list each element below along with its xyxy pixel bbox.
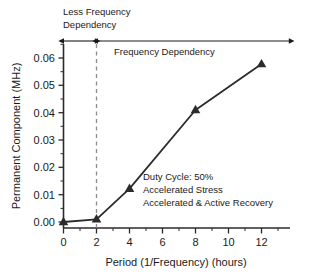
condition-note-line1: Duty Cycle: 50% [143, 171, 214, 182]
permanent-component-vs-period-chart: Less Frequency Dependency Frequency Depe… [0, 0, 309, 278]
x-axis-title: Period (1/Frequency) (hours) [105, 256, 246, 268]
y-tick-label: 0.01 [34, 189, 55, 201]
y-axis-title: Permanent Component (MHz) [10, 63, 22, 210]
frequency-dependency-label: Frequency Dependency [114, 46, 215, 57]
x-tick-label: 12 [255, 236, 267, 248]
y-tick-label: 0.06 [34, 52, 55, 64]
condition-note-line2: Accelerated Stress [143, 184, 223, 195]
y-tick-label: 0.05 [34, 79, 55, 91]
y-tick-label: 0.00 [34, 216, 55, 228]
chart-figure: Less Frequency Dependency Frequency Depe… [0, 0, 309, 278]
less-frequency-dependency-label-line2: Dependency [63, 19, 117, 30]
x-tick-label: 6 [159, 236, 165, 248]
x-tick-label: 10 [222, 236, 234, 248]
data-point-marker [191, 105, 201, 113]
data-point-marker [257, 59, 267, 67]
x-tick-label: 2 [93, 236, 99, 248]
condition-note-line3: Accelerated & Active Recovery [143, 197, 273, 208]
less-frequency-dependency-label-line1: Less Frequency [63, 6, 131, 17]
x-axis-tick-labels: 0 2 4 6 8 10 12 [60, 236, 267, 248]
condition-note: Duty Cycle: 50% Accelerated Stress Accel… [143, 171, 273, 208]
y-tick-label: 0.04 [34, 107, 55, 119]
y-tick-label: 0.02 [34, 161, 55, 173]
x-tick-label: 4 [126, 236, 132, 248]
y-tick-label: 0.03 [34, 134, 55, 146]
x-axis-ticks [64, 228, 262, 234]
x-tick-label: 0 [60, 236, 66, 248]
y-axis-tick-labels: 0.00 0.01 0.02 0.03 0.04 0.05 0.06 [34, 52, 55, 228]
x-tick-label: 8 [192, 236, 198, 248]
